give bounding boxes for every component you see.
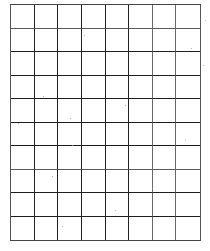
grid-cell — [129, 146, 153, 170]
grid-cell — [106, 123, 130, 147]
grid-cell — [129, 52, 153, 76]
grid-cell — [106, 99, 130, 123]
grid-cell — [129, 217, 153, 241]
grid-cell — [106, 29, 130, 53]
grid-cell — [58, 52, 82, 76]
scan-speck — [72, 145, 73, 146]
grid-cell — [11, 99, 35, 123]
grid-cell — [106, 170, 130, 194]
grid-cell — [106, 146, 130, 170]
grid-cell — [58, 193, 82, 217]
grid-cell — [82, 76, 106, 100]
grid-cell — [176, 29, 200, 53]
scan-speck — [185, 140, 186, 141]
grid-cell — [129, 99, 153, 123]
grid-cell — [82, 146, 106, 170]
grid-cell — [106, 193, 130, 217]
blank-grid — [10, 4, 201, 241]
grid-cell — [35, 99, 59, 123]
scan-speck — [205, 20, 206, 21]
grid-cell — [176, 99, 200, 123]
scan-speck — [191, 48, 192, 49]
grid-cell — [11, 217, 35, 241]
grid-cell — [153, 193, 177, 217]
grid-cell — [35, 123, 59, 147]
grid-cell — [129, 193, 153, 217]
grid-cell — [82, 217, 106, 241]
grid-cell — [58, 146, 82, 170]
grid-cell — [129, 170, 153, 194]
grid-cell — [176, 76, 200, 100]
grid-cell — [153, 217, 177, 241]
grid-cell — [82, 193, 106, 217]
grid-cell — [11, 52, 35, 76]
grid-cell — [11, 193, 35, 217]
scan-speck — [125, 105, 126, 106]
grid-cell — [129, 29, 153, 53]
grid-cell — [106, 217, 130, 241]
grid-cell — [35, 217, 59, 241]
scan-speck — [115, 210, 116, 211]
scan-speck — [52, 176, 53, 177]
grid-cell — [106, 5, 130, 29]
grid-cell — [153, 146, 177, 170]
grid-cell — [35, 29, 59, 53]
grid-cell — [82, 170, 106, 194]
grid-cell — [58, 29, 82, 53]
scan-speck — [152, 188, 153, 189]
grid-cell — [129, 76, 153, 100]
grid-cell — [176, 170, 200, 194]
grid-cell — [153, 123, 177, 147]
grid-cell — [176, 217, 200, 241]
grid-cell — [11, 170, 35, 194]
grid-cell — [58, 170, 82, 194]
grid-cell — [82, 123, 106, 147]
grid-cell — [82, 29, 106, 53]
scan-speck — [70, 118, 71, 119]
grid-cell — [153, 52, 177, 76]
grid-cell — [82, 99, 106, 123]
grid-cell — [11, 76, 35, 100]
grid-cell — [11, 146, 35, 170]
grid-cell — [153, 99, 177, 123]
scan-speck — [203, 65, 204, 66]
scan-speck — [62, 226, 63, 227]
grid-cell — [35, 193, 59, 217]
grid-cell — [35, 76, 59, 100]
grid-cell — [176, 146, 200, 170]
grid-cell — [153, 76, 177, 100]
grid-cell — [176, 5, 200, 29]
grid-cell — [153, 29, 177, 53]
scan-speck — [84, 35, 85, 36]
grid-cell — [58, 5, 82, 29]
grid-cell — [35, 170, 59, 194]
grid-cell — [106, 52, 130, 76]
scan-speck — [43, 96, 44, 97]
grid-cell — [58, 76, 82, 100]
grid-cell — [129, 5, 153, 29]
grid-cell — [153, 170, 177, 194]
grid-cell — [129, 123, 153, 147]
grid-cell — [11, 29, 35, 53]
grid-cell — [153, 5, 177, 29]
grid-cell — [82, 52, 106, 76]
scan-speck — [18, 123, 19, 124]
grid-cell — [35, 146, 59, 170]
grid-cell — [176, 123, 200, 147]
grid-cell — [106, 76, 130, 100]
grid-cell — [11, 123, 35, 147]
grid-cell — [35, 52, 59, 76]
grid-cell — [58, 217, 82, 241]
grid-cell — [35, 5, 59, 29]
grid-cell — [176, 52, 200, 76]
grid-cell — [176, 193, 200, 217]
grid-cell — [82, 5, 106, 29]
grid-cell — [58, 123, 82, 147]
grid-cell — [11, 5, 35, 29]
